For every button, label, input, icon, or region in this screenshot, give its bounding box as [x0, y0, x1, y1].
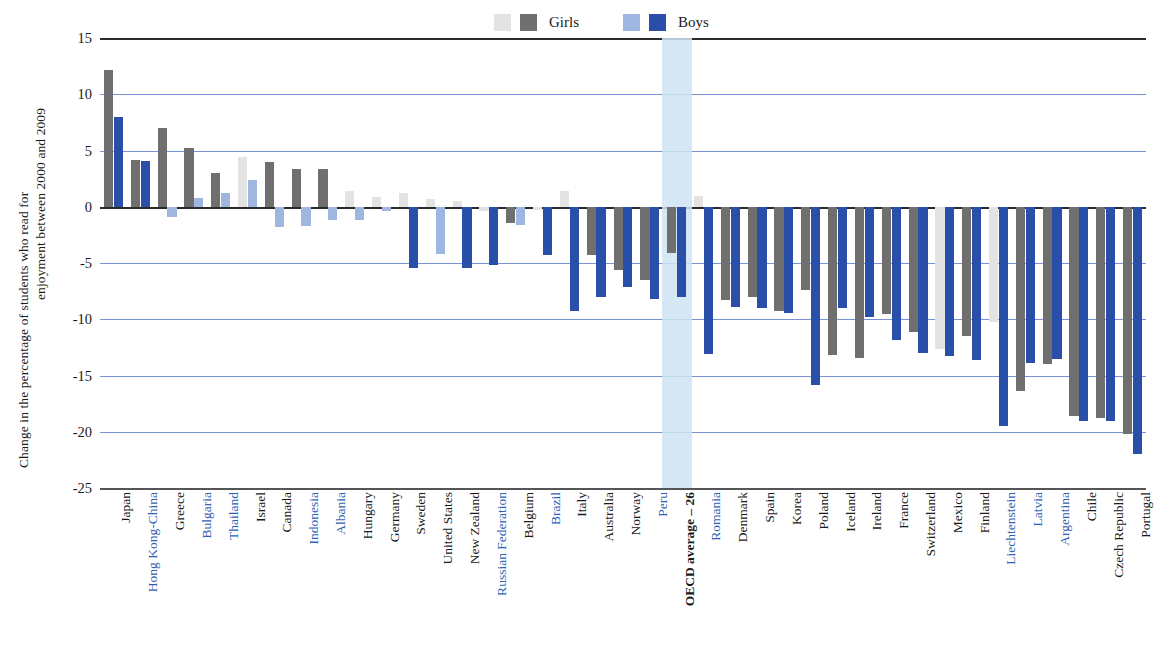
- x-axis-label-indonesia: Indonesia: [306, 492, 322, 544]
- bar-boys: [301, 207, 310, 226]
- bar-girls: [533, 207, 542, 210]
- bar-boys: [677, 207, 686, 297]
- bar-girls: [1069, 207, 1078, 416]
- y-tick-label: -10: [73, 311, 92, 328]
- bar-boys: [999, 207, 1008, 426]
- x-axis-label-sweden: Sweden: [413, 492, 429, 535]
- bar-boys: [1133, 207, 1142, 455]
- bar-boys: [516, 207, 525, 225]
- bar-boys: [650, 207, 659, 299]
- bar-girls: [801, 207, 810, 290]
- y-tick-label: -20: [73, 423, 92, 440]
- bar-girls: [372, 197, 381, 207]
- x-axis-label-new-zealand: New Zealand: [467, 492, 483, 564]
- bar-girls: [453, 201, 462, 207]
- x-axis-label-brazil: Brazil: [548, 492, 564, 525]
- bar-boys: [167, 207, 176, 217]
- x-axis-label-france: France: [896, 492, 912, 529]
- bar-girls: [104, 70, 113, 207]
- y-tick-label: -5: [80, 255, 92, 272]
- legend: GirlsBoys: [494, 14, 753, 31]
- x-axis-label-germany: Germany: [387, 492, 403, 542]
- bar-girls: [828, 207, 837, 356]
- bar-girls: [640, 207, 649, 280]
- x-axis-label-argentina: Argentina: [1057, 492, 1073, 546]
- x-axis-label-bulgaria: Bulgaria: [199, 492, 215, 539]
- x-axis-label-australia: Australia: [601, 492, 617, 542]
- bar-boys: [757, 207, 766, 308]
- x-axis-label-denmark: Denmark: [735, 492, 751, 542]
- bar-girls: [399, 193, 408, 207]
- bar-girls: [560, 191, 569, 207]
- legend-label: Girls: [549, 14, 579, 31]
- bar-boys: [811, 207, 820, 385]
- x-axis-label-hungary: Hungary: [360, 492, 376, 539]
- legend-swatch-light-icon: [623, 14, 640, 31]
- legend-swatch-dark-icon: [520, 14, 537, 31]
- bar-boys: [784, 207, 793, 313]
- bar-series-container: [100, 38, 1146, 488]
- bar-boys: [462, 207, 471, 268]
- x-axis-label-thailand: Thailand: [226, 492, 242, 540]
- bar-boys: [1079, 207, 1088, 421]
- bar-girls: [909, 207, 918, 332]
- bar-boys: [1106, 207, 1115, 421]
- bar-girls: [1096, 207, 1105, 419]
- x-axis-label-united-states: United States: [440, 492, 456, 564]
- bar-girls: [1043, 207, 1052, 365]
- bar-boys: [945, 207, 954, 357]
- legend-item-girls: Girls: [494, 14, 623, 31]
- x-axis-label-switzerland: Switzerland: [923, 492, 939, 556]
- x-axis-label-hong-kong-china: Hong Kong-China: [145, 492, 161, 592]
- x-axis-label-oecd-average-26: OECD average – 26: [682, 492, 698, 606]
- bar-girls: [479, 207, 488, 212]
- x-axis-label-mexico: Mexico: [950, 492, 966, 533]
- x-axis-category-labels: JapanHong Kong-ChinaGreeceBulgariaThaila…: [100, 492, 1146, 664]
- bar-boys: [543, 207, 552, 255]
- bar-girls: [587, 207, 596, 255]
- legend-item-boys: Boys: [623, 14, 753, 31]
- x-axis-label-portugal: Portugal: [1138, 492, 1154, 538]
- x-axis-label-finland: Finland: [977, 492, 993, 533]
- bar-boys: [355, 207, 364, 221]
- x-axis-label-greece: Greece: [172, 492, 188, 530]
- bar-boys: [596, 207, 605, 297]
- x-axis-label-israel: Israel: [253, 492, 269, 522]
- y-tick-label: 0: [85, 198, 92, 215]
- bar-girls: [614, 207, 623, 270]
- bar-girls: [265, 162, 274, 207]
- x-axis-label-chile: Chile: [1084, 492, 1100, 521]
- y-tick-label: -15: [73, 367, 92, 384]
- bar-boys: [328, 207, 337, 221]
- bar-girls: [1016, 207, 1025, 392]
- bar-boys: [409, 207, 418, 268]
- x-axis-label-italy: Italy: [574, 492, 590, 517]
- chart-root: Change in the percentage of students who…: [0, 0, 1156, 664]
- bar-girls: [774, 207, 783, 312]
- x-axis-label-russian-federation: Russian Federation: [494, 492, 510, 596]
- bar-boys: [221, 193, 230, 207]
- bar-boys: [838, 207, 847, 308]
- bar-boys: [972, 207, 981, 360]
- bar-boys: [194, 198, 203, 207]
- bar-boys: [892, 207, 901, 340]
- y-axis-title: Change in the percentage of students who…: [0, 0, 40, 500]
- x-axis-label-norway: Norway: [628, 492, 644, 536]
- bar-girls: [721, 207, 730, 300]
- bar-girls: [345, 191, 354, 207]
- y-axis-title-line1: Change in the percentage of students who…: [16, 192, 32, 468]
- legend-swatch-light-icon: [494, 14, 511, 31]
- x-axis-label-korea: Korea: [789, 492, 805, 525]
- bar-boys: [382, 207, 391, 212]
- bar-girls: [131, 160, 140, 207]
- legend-swatch-dark-icon: [649, 14, 666, 31]
- y-tick-label: -25: [73, 480, 92, 497]
- bar-girls: [748, 207, 757, 297]
- bar-girls: [318, 169, 327, 207]
- bar-girls: [158, 128, 167, 207]
- bar-boys: [918, 207, 927, 353]
- x-axis-label-czech-republic: Czech Republic: [1111, 492, 1127, 578]
- bar-boys: [275, 207, 284, 227]
- x-axis-label-peru: Peru: [655, 492, 671, 517]
- gridline--25: [100, 488, 1146, 490]
